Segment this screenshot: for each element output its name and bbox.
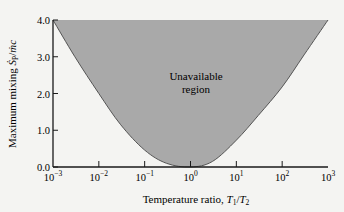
y-tick-label: 1.0 xyxy=(37,125,50,136)
x-tick-label: 10−2 xyxy=(90,169,109,183)
y-tick-label: 2.0 xyxy=(37,89,50,100)
y-tick-label: 4.0 xyxy=(37,15,50,26)
y-tick-label: 3.0 xyxy=(37,52,50,63)
x-tick-label: 100 xyxy=(183,169,198,183)
x-tick-label: 10−1 xyxy=(135,169,154,183)
x-tick-label: 102 xyxy=(275,169,290,183)
x-axis-label: Temperature ratio, T1/T2 xyxy=(143,193,250,207)
x-tick-label: 10−3 xyxy=(44,169,63,183)
y-axis-label: Maximum mixing ṠP/ṁc xyxy=(6,40,20,148)
annotation-line2: region xyxy=(182,83,211,95)
x-tick-label: 101 xyxy=(229,169,244,183)
y-ticks: 0.01.02.03.04.0 xyxy=(37,15,58,173)
x-tick-label: 103 xyxy=(321,169,336,183)
chart: 0.01.02.03.04.0 10−310−210−1100101102103… xyxy=(0,0,344,212)
annotation-line1: Unavailable xyxy=(169,70,222,82)
